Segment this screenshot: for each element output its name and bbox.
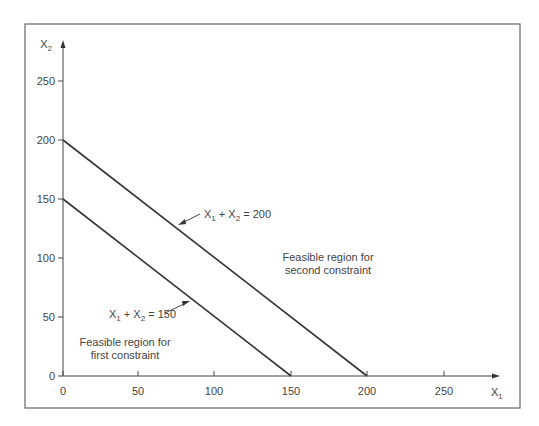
annotation-arrow-200 [178, 214, 200, 225]
svg-text:50: 50 [43, 311, 55, 323]
svg-text:0: 0 [49, 370, 55, 382]
svg-text:250: 250 [435, 385, 453, 397]
label-line-200: X1 + X2 = 200 [204, 208, 271, 223]
region-first-constraint-line2: first constraint [91, 349, 159, 361]
svg-text:50: 50 [132, 385, 144, 397]
svg-text:200: 200 [358, 385, 376, 397]
label-line-150: X1 + X2 = 150 [109, 308, 176, 323]
svg-text:0: 0 [60, 385, 66, 397]
y-axis-arrow-icon [61, 40, 66, 48]
chart: X2 X1 0 50 100 150 200 250 0 50 100 150 … [0, 0, 539, 426]
region-first-constraint-line1: Feasible region for [79, 336, 170, 348]
svg-text:100: 100 [205, 385, 223, 397]
y-axis-title: X2 [40, 38, 52, 53]
svg-text:150: 150 [282, 385, 300, 397]
svg-text:150: 150 [37, 193, 55, 205]
y-ticks: 0 50 100 150 200 250 [37, 75, 63, 382]
region-second-constraint-line1: Feasible region for [282, 251, 373, 263]
x-axis-title: X1 [491, 386, 503, 401]
region-second-constraint-line2: second constraint [285, 264, 371, 276]
x-ticks: 0 50 100 150 200 250 [60, 371, 453, 397]
svg-text:250: 250 [37, 75, 55, 87]
x-axis-arrow-icon [492, 374, 500, 379]
svg-text:100: 100 [37, 252, 55, 264]
svg-text:200: 200 [37, 134, 55, 146]
